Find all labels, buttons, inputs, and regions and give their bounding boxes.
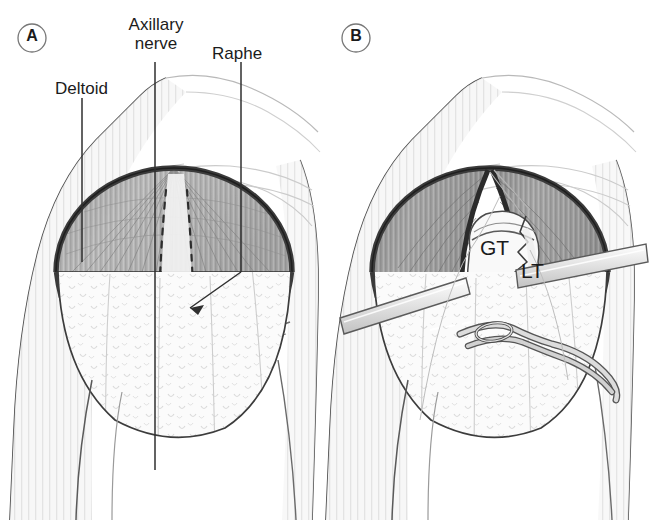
label-raphe: Raphe	[212, 44, 262, 63]
panel-b-marker-label: B	[342, 27, 370, 45]
label-deltoid: Deltoid	[55, 79, 108, 98]
figure-canvas: A B Deltoid Axillary nerve Raphe GT LT	[0, 0, 651, 520]
label-axillary-nerve: Axillary nerve	[116, 15, 196, 53]
label-lesser-tuberosity: LT	[521, 259, 544, 283]
panel-a-marker-label: A	[18, 27, 46, 45]
label-greater-tuberosity: GT	[480, 236, 509, 260]
label-axillary-nerve-line2: nerve	[116, 34, 196, 53]
label-axillary-nerve-line1: Axillary	[116, 15, 196, 34]
anatomy-illustration	[0, 0, 651, 520]
